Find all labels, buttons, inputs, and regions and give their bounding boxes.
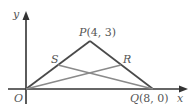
axes xyxy=(8,11,188,104)
triangle-opq xyxy=(26,41,153,89)
point-s-label: S xyxy=(51,53,59,66)
point-r-label: R xyxy=(122,53,131,66)
point-q-name: Q xyxy=(130,92,139,105)
point-q-label: Q(8, 0) xyxy=(130,92,169,105)
y-axis-label: y xyxy=(12,8,20,21)
point-p-coords: (4, 3) xyxy=(86,26,116,39)
y-axis-arrow-icon xyxy=(23,11,30,20)
origin-label: O xyxy=(14,92,23,105)
point-q-coords: (8, 0) xyxy=(139,92,169,105)
point-p-label: P(4, 3) xyxy=(78,26,116,39)
coordinate-diagram: y x O P(4, 3) Q(8, 0) S R xyxy=(0,0,194,111)
inner-lines xyxy=(26,65,153,89)
x-axis-label: x xyxy=(177,92,184,105)
